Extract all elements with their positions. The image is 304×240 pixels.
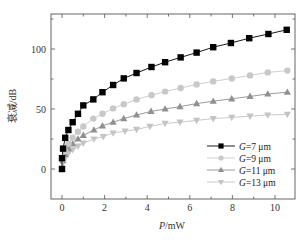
square-marker xyxy=(228,40,234,46)
circle-marker xyxy=(218,155,223,160)
triangle-down-marker xyxy=(74,144,81,150)
square-marker xyxy=(162,59,168,65)
square-marker xyxy=(121,75,127,81)
circle-marker xyxy=(110,105,116,111)
circle-marker xyxy=(229,75,235,81)
square-marker xyxy=(62,135,68,141)
x-tick-label: 6 xyxy=(187,202,192,213)
square-marker xyxy=(60,145,66,151)
square-marker xyxy=(59,166,65,172)
square-marker xyxy=(193,49,199,55)
x-axis-label-unit: /mW xyxy=(165,220,186,231)
legend-label: G=11 μm xyxy=(239,166,276,176)
square-marker xyxy=(265,31,271,37)
circle-marker xyxy=(148,92,154,98)
circle-marker xyxy=(99,111,105,117)
x-tick-label: 8 xyxy=(230,202,235,213)
y-axis-label: 衰减/dB xyxy=(6,88,18,123)
triangle-down-marker xyxy=(284,112,291,118)
attenuation-vs-power-chart: 0246810050100 G=7 μmG=9 μmG=11 μmG=13 μm… xyxy=(0,0,304,240)
legend-item: G=7 μm xyxy=(207,142,271,152)
legend-label: G=13 μm xyxy=(239,178,276,188)
circle-marker xyxy=(284,67,290,73)
circle-marker xyxy=(193,81,199,87)
square-marker xyxy=(148,64,154,70)
y-tick-label: 0 xyxy=(41,164,46,175)
square-marker xyxy=(90,96,96,102)
x-tick-label: 2 xyxy=(102,202,107,213)
square-marker xyxy=(218,143,223,148)
x-tick-label: 0 xyxy=(60,202,65,213)
square-marker xyxy=(210,44,216,50)
legend-label: G=9 μm xyxy=(239,154,271,164)
x-tick-label: 10 xyxy=(270,202,280,213)
circle-marker xyxy=(265,69,271,75)
x-axis-label: P/mW xyxy=(158,220,186,231)
legend-item: G=11 μm xyxy=(207,166,276,176)
square-marker xyxy=(177,54,183,60)
square-marker xyxy=(110,82,116,88)
circle-marker xyxy=(90,115,96,121)
y-tick-label: 50 xyxy=(36,104,46,115)
legend-item: G=13 μm xyxy=(207,178,276,188)
y-tick-label: 100 xyxy=(31,44,46,55)
circle-marker xyxy=(162,88,168,94)
circle-marker xyxy=(69,135,75,141)
square-marker xyxy=(99,89,105,95)
circle-marker xyxy=(177,85,183,91)
square-marker xyxy=(284,27,290,33)
circle-marker xyxy=(121,101,127,107)
legend-label: G=7 μm xyxy=(239,142,271,152)
x-tick-label: 4 xyxy=(145,202,150,213)
square-marker xyxy=(246,35,252,41)
triangle-down-marker xyxy=(218,180,224,185)
legend-item: G=9 μm xyxy=(207,154,271,164)
square-marker xyxy=(65,127,71,133)
square-marker xyxy=(59,155,65,161)
square-marker xyxy=(133,70,139,76)
triangle-up-marker xyxy=(284,88,291,94)
circle-marker xyxy=(133,96,139,102)
square-marker xyxy=(69,119,75,125)
circle-marker xyxy=(80,123,86,129)
legend: G=7 μmG=9 μmG=11 μmG=13 μm xyxy=(207,142,276,188)
square-marker xyxy=(80,102,86,108)
square-marker xyxy=(75,111,81,117)
triangle-up-marker xyxy=(218,167,224,172)
circle-marker xyxy=(75,129,81,135)
circle-marker xyxy=(210,78,216,84)
x-axis-label-var: P xyxy=(158,220,165,231)
circle-marker xyxy=(247,72,253,78)
triangle-up-marker xyxy=(90,126,97,132)
